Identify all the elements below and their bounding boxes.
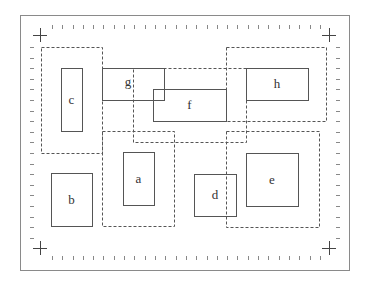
box-h: h: [247, 69, 309, 101]
box-label-e: e: [269, 172, 275, 187]
box-b: b: [52, 174, 93, 227]
cross-icon-top-left: [33, 28, 47, 42]
outer-frame: [21, 16, 350, 271]
corner-crosses: [33, 28, 336, 255]
box-label-b: b: [68, 192, 75, 207]
box-label-d: d: [212, 187, 219, 202]
cross-icon-bottom-left: [33, 241, 47, 255]
cross-icon-bottom-right: [322, 241, 336, 255]
box-label-f: f: [187, 97, 192, 112]
box-label-c: c: [69, 92, 75, 107]
box-label-a: a: [136, 171, 142, 186]
tick-marks: [30, 25, 340, 260]
box-d: d: [195, 175, 237, 217]
dashed-regions: [42, 48, 327, 228]
box-c: c: [62, 69, 83, 132]
box-a: a: [124, 153, 155, 206]
box-e: e: [247, 154, 299, 207]
box-label-g: g: [125, 74, 132, 89]
floorplan-diagram: cgfhabde: [0, 0, 366, 286]
box-label-h: h: [274, 76, 281, 91]
labeled-boxes: cgfhabde: [52, 69, 309, 227]
cross-icon-top-right: [322, 28, 336, 42]
